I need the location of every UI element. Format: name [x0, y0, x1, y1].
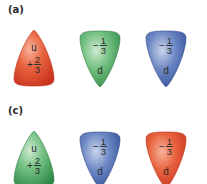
- quark-up-green: u +23: [12, 130, 56, 184]
- charge-denominator: 3: [34, 65, 41, 74]
- charge-sign: −: [159, 41, 165, 51]
- panel-label-c: (c): [8, 105, 23, 116]
- quark-charge: +23: [12, 156, 56, 175]
- quark-flavor: d: [78, 167, 122, 177]
- quark-flavor: u: [12, 43, 56, 53]
- quark-down-blue: −13 d: [144, 30, 188, 88]
- charge-sign: +: [27, 161, 33, 171]
- charge-sign: +: [27, 60, 33, 70]
- quark-down-blue: −13 d: [78, 131, 122, 184]
- charge-denominator: 3: [166, 147, 173, 156]
- quark-charge: −13: [78, 36, 122, 55]
- charge-denominator: 3: [100, 147, 107, 156]
- panel-label-a: (a): [8, 4, 24, 15]
- charge-denominator: 3: [34, 166, 41, 175]
- charge-sign: −: [159, 142, 165, 152]
- quark-flavor: d: [144, 66, 188, 76]
- charge-denominator: 3: [100, 46, 107, 55]
- charge-sign: −: [93, 142, 99, 152]
- quark-flavor: d: [78, 66, 122, 76]
- quark-charge: −13: [78, 137, 122, 156]
- charge-denominator: 3: [166, 46, 173, 55]
- quark-charge: +23: [12, 55, 56, 74]
- quark-charge: −13: [144, 137, 188, 156]
- quark-flavor: d: [144, 167, 188, 177]
- quark-up-red: u +23: [12, 29, 56, 87]
- quark-down-green: −13 d: [78, 30, 122, 88]
- quark-charge: −13: [144, 36, 188, 55]
- charge-sign: −: [93, 41, 99, 51]
- quark-down-red: −13 d: [144, 131, 188, 184]
- quark-flavor: u: [12, 144, 56, 154]
